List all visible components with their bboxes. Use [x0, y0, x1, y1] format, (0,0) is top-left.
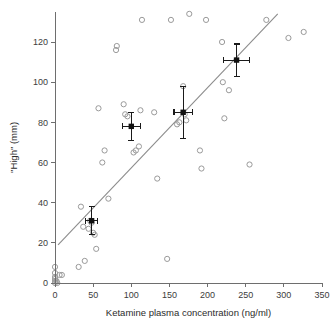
plot-canvas: 020406080100120050100150200250300350Keta… — [0, 0, 334, 325]
axis-labels-group: 020406080100120050100150200250300350Keta… — [8, 37, 330, 318]
data-point-31 — [136, 144, 141, 149]
data-point-42 — [184, 118, 189, 123]
data-point-36 — [165, 256, 170, 261]
x-axis-title: Ketamine plasma concentration (ng/ml) — [106, 307, 271, 318]
y-tick-label-40: 40 — [38, 198, 48, 208]
data-point-11 — [78, 204, 83, 209]
y-tick-label-0: 0 — [43, 278, 48, 288]
y-tick-label-100: 100 — [33, 77, 48, 87]
data-point-12 — [81, 224, 86, 229]
data-points-group — [52, 11, 306, 285]
data-point-51 — [247, 162, 252, 167]
y-tick-label-20: 20 — [38, 238, 48, 248]
x-tick-label-0: 0 — [52, 290, 57, 300]
x-tick-label-200: 200 — [200, 290, 215, 300]
data-point-44 — [197, 148, 202, 153]
y-tick-label-80: 80 — [38, 118, 48, 128]
data-point-43 — [187, 11, 192, 16]
data-point-47 — [219, 39, 224, 44]
x-tick-label-250: 250 — [238, 290, 253, 300]
data-point-49 — [222, 116, 227, 121]
data-point-45 — [199, 166, 204, 171]
axes-group — [51, 12, 322, 287]
data-point-19 — [94, 246, 99, 251]
mean-marker-3 — [234, 57, 239, 62]
mean-marker-1 — [129, 124, 134, 129]
data-point-10 — [76, 264, 81, 269]
y-axis-title: "High" (mm) — [8, 122, 19, 173]
data-point-48 — [220, 80, 225, 85]
data-point-22 — [102, 148, 107, 153]
data-point-34 — [152, 110, 157, 115]
data-point-14 — [86, 226, 91, 231]
data-point-46 — [203, 17, 208, 22]
data-point-13 — [82, 258, 87, 263]
data-point-26 — [121, 102, 126, 107]
x-tick-label-350: 350 — [314, 290, 329, 300]
data-point-23 — [106, 196, 111, 201]
data-point-53 — [286, 35, 291, 40]
regression-line — [58, 14, 278, 245]
scatter-plot-figure: 020406080100120050100150200250300350Keta… — [0, 0, 334, 325]
data-point-37 — [168, 17, 173, 22]
mean-marker-2 — [180, 110, 185, 115]
x-tick-label-150: 150 — [162, 290, 177, 300]
data-point-32 — [138, 108, 143, 113]
mean-marker-0 — [89, 218, 94, 223]
y-tick-label-60: 60 — [38, 158, 48, 168]
data-point-20 — [96, 106, 101, 111]
data-point-50 — [226, 88, 231, 93]
y-tick-label-120: 120 — [33, 37, 48, 47]
regression-line-group — [58, 14, 278, 245]
x-tick-label-100: 100 — [124, 290, 139, 300]
data-point-35 — [155, 176, 160, 181]
data-point-52 — [264, 17, 269, 22]
data-point-54 — [301, 29, 306, 34]
x-tick-label-300: 300 — [276, 290, 291, 300]
x-tick-label-50: 50 — [88, 290, 98, 300]
mean-error-bars-group — [86, 44, 250, 235]
data-point-33 — [139, 17, 144, 22]
data-point-21 — [100, 160, 105, 165]
